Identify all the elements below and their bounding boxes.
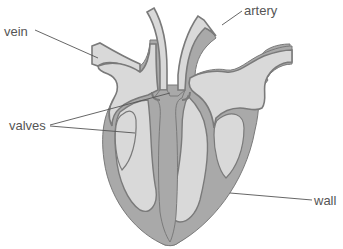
vein-label: vein bbox=[4, 24, 28, 39]
artery-leader-line bbox=[222, 11, 242, 25]
artery-label: artery bbox=[244, 3, 278, 18]
heart-diagram: vein artery valves wall bbox=[0, 0, 343, 249]
valves-label: valves bbox=[9, 118, 46, 133]
wall-leader-line bbox=[230, 193, 312, 200]
vein-leader-line bbox=[35, 30, 98, 58]
wall-label: wall bbox=[313, 193, 337, 208]
